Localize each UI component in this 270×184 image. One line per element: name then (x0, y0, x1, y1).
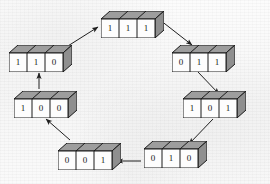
bit-cell: 0 (50, 99, 68, 118)
register-cells: 0 1 1 (172, 53, 226, 72)
bit-cell: 1 (119, 19, 137, 38)
shift-register-cycle-figure: 1 1 1 0 1 1 (0, 0, 270, 184)
state-node-110: 1 1 0 (9, 45, 72, 72)
bit-cell: 1 (27, 53, 45, 72)
bit-cell: 1 (137, 19, 155, 38)
bit-cell: 1 (219, 99, 237, 118)
bit-cell: 0 (144, 149, 162, 168)
register-cells: 0 0 1 (58, 151, 112, 170)
bit-cell: 0 (172, 53, 190, 72)
bit-cell: 1 (94, 151, 112, 170)
register-cells: 1 0 0 (14, 99, 68, 118)
bit-cell: 0 (58, 151, 76, 170)
bit-cell: 0 (45, 53, 63, 72)
register-cells: 1 1 0 (9, 53, 63, 72)
state-node-101: 1 0 1 (183, 91, 246, 118)
bit-cell: 1 (14, 99, 32, 118)
bit-cell: 0 (32, 99, 50, 118)
bit-cell: 1 (162, 149, 180, 168)
state-node-001: 0 0 1 (58, 143, 121, 170)
register-cells: 1 0 1 (183, 99, 237, 118)
register-cells: 0 1 0 (144, 149, 198, 168)
bit-cell: 0 (201, 99, 219, 118)
state-node-011: 0 1 1 (172, 45, 235, 72)
bit-cell: 1 (208, 53, 226, 72)
state-node-010: 0 1 0 (144, 141, 207, 168)
arrow-111-to-011 (160, 20, 192, 45)
register-cells: 1 1 1 (101, 19, 155, 38)
bit-cell: 0 (76, 151, 94, 170)
bit-cell: 0 (180, 149, 198, 168)
bit-cell: 1 (183, 99, 201, 118)
arrow-001-to-100 (46, 119, 70, 140)
bit-cell: 1 (9, 53, 27, 72)
bit-cell: 1 (190, 53, 208, 72)
state-node-100: 1 0 0 (14, 91, 77, 118)
state-node-111: 1 1 1 (101, 11, 164, 38)
bit-cell: 1 (101, 19, 119, 38)
